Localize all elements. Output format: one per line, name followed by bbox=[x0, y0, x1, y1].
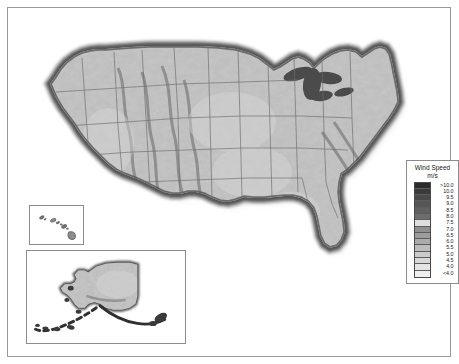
wind-speed-legend: Wind Speed m/s >10.010.09.59.08.58.07.57… bbox=[406, 160, 459, 284]
hawaii-inset bbox=[29, 205, 84, 245]
legend-swatch-column bbox=[414, 182, 431, 278]
alaska-inset bbox=[26, 250, 186, 344]
legend-title: Wind Speed bbox=[410, 164, 455, 172]
legend-label: <4.0 bbox=[434, 270, 454, 276]
legend-swatch bbox=[415, 271, 430, 277]
legend-body: >10.010.09.59.08.58.07.57.06.56.05.55.04… bbox=[410, 182, 455, 278]
legend-units: m/s bbox=[410, 172, 455, 180]
legend-label-column: >10.010.09.59.08.58.07.57.06.56.05.55.04… bbox=[434, 182, 454, 276]
aleutian-chain bbox=[36, 306, 165, 331]
map-frame-border: Wind Speed m/s >10.010.09.59.08.58.07.57… bbox=[7, 7, 451, 357]
